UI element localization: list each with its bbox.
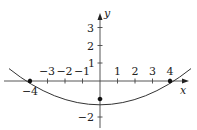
y-tick-label: 2 (87, 40, 94, 53)
x-tick-label: 2 (132, 65, 139, 78)
x-axis-arrow-icon (182, 79, 189, 84)
x-tick-label: 4 (167, 65, 174, 78)
y-tick-label: 3 (87, 22, 94, 35)
y-axis-arrow-icon (98, 13, 103, 20)
y-tick-label: −2 (78, 111, 94, 124)
point-4-0 (168, 79, 172, 83)
x-tick-label: −4 (22, 85, 38, 98)
y-axis-label: y (103, 7, 111, 20)
x-tick-label: 3 (149, 65, 156, 78)
parabola-chart: −4 −3 −2 −1 1 2 3 4 3 2 1 −2 x y (0, 0, 197, 130)
x-tick-label: −3 (39, 65, 55, 78)
x-axis-label: x (180, 84, 187, 97)
point-0-neg1 (98, 97, 102, 101)
y-tick-label: 1 (88, 57, 95, 70)
x-tick-label: 1 (114, 65, 121, 78)
x-tick-label: −2 (56, 65, 72, 78)
point-neg4-0 (28, 79, 32, 83)
